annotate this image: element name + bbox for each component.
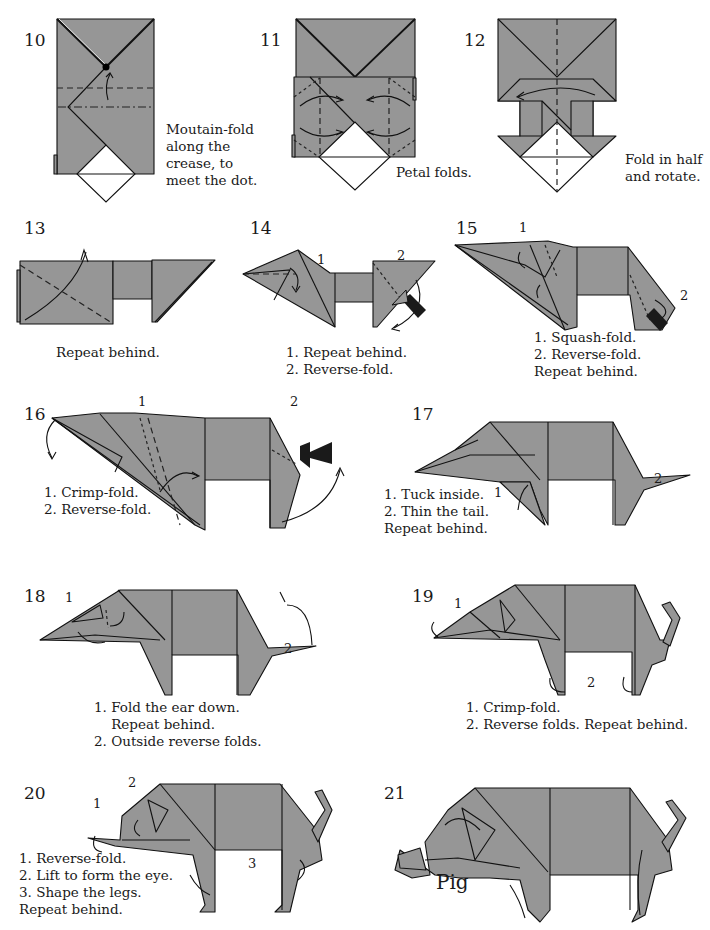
step-15: 15 1 2 1. Squash-fold. 2. Reverse-fold. … — [450, 210, 710, 380]
step-13: 13 Repeat behind. — [0, 210, 240, 370]
step-14: 14 1 2 1. Repeat behind. 2. Reverse-fold… — [230, 210, 450, 370]
step-caption: 1. Repeat behind. 2. Reverse-fold. — [286, 344, 407, 378]
step-label: 2 — [290, 394, 298, 409]
pig-final-illustration — [370, 750, 710, 930]
step-10: 10 Moutain-fold along the crease, to mee… — [0, 0, 250, 210]
step-label: 1 — [317, 252, 325, 267]
step-label: 1 — [454, 596, 462, 611]
step-caption: Moutain-fold along the crease, to meet t… — [166, 121, 257, 189]
step-11: 11 Petal folds. — [250, 0, 480, 210]
step-20: 20 1 2 3 1. Reverse-fold. 2. Lift to for… — [0, 750, 370, 930]
step-label: 1 — [494, 485, 502, 500]
step-label: 1 — [138, 394, 146, 409]
step-16-illustration — [0, 380, 360, 550]
step-label: 2 — [128, 775, 136, 790]
step-21: 21 Pig — [370, 750, 710, 930]
step-label: 2 — [587, 675, 595, 690]
step-label: 1 — [519, 220, 527, 235]
step-caption: 1. Tuck inside. 2. Thin the tail. Repeat… — [384, 486, 489, 537]
dot-icon — [103, 64, 110, 71]
step-17: 17 1 2 1. Tuck inside. 2. Thin the tail.… — [370, 380, 710, 550]
final-title: Pig — [436, 870, 469, 894]
step-caption: 1. Reverse-fold. 2. Lift to form the eye… — [19, 850, 173, 918]
step-12: 12 Fold in half and rotate. — [460, 0, 710, 210]
step-caption: Repeat behind. — [56, 344, 160, 361]
step-caption: 1. Fold the ear down. Repeat behind. 2. … — [94, 699, 262, 750]
outside-reverse-arrow-icon — [287, 605, 312, 645]
step-18: 18 1 2 1. Fold the ear down. Repeat behi… — [0, 560, 360, 750]
step-label: 1 — [65, 590, 73, 605]
step-19: 19 1 2 1. Crimp-fold. 2. Reverse folds. … — [370, 560, 710, 750]
step-label: 2 — [284, 641, 292, 656]
step-label: 3 — [248, 856, 256, 871]
step-caption: 1. Crimp-fold. 2. Reverse folds. Repeat … — [466, 699, 688, 733]
step-caption: 1. Crimp-fold. 2. Reverse-fold. — [44, 484, 151, 518]
step-label: 2 — [680, 288, 688, 303]
step-caption: Fold in half and rotate. — [625, 151, 702, 185]
step-caption: 1. Squash-fold. 2. Reverse-fold. Repeat … — [534, 329, 641, 380]
step-label: 1 — [93, 796, 101, 811]
push-arrow-icon — [300, 442, 332, 468]
step-label: 2 — [397, 248, 405, 263]
step-16: 16 1 2 1. Crimp-fold. 2. Reverse-fold. — [0, 380, 360, 550]
step-label: 2 — [654, 471, 662, 486]
